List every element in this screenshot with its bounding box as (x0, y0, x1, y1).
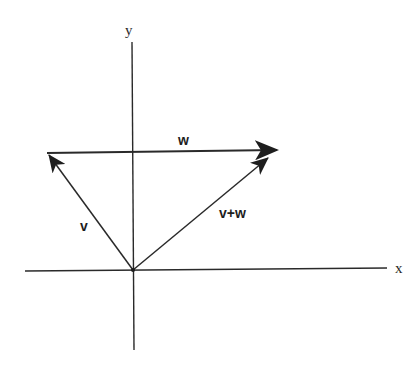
x-axis-label: x (395, 260, 403, 276)
y-axis (132, 42, 134, 350)
vector-w-label: w (177, 132, 189, 148)
y-axis-label: y (125, 22, 133, 38)
vector-w-arrow (47, 150, 277, 153)
vector-v-arrow (49, 155, 133, 270)
x-axis (25, 268, 387, 271)
vector-v-label: v (80, 218, 88, 234)
vector-v-plus-w-arrow (133, 158, 268, 270)
origin-point (131, 268, 135, 272)
vector-addition-diagram: y x v w v+w (0, 0, 419, 365)
vector-v-plus-w-label: v+w (219, 205, 246, 221)
